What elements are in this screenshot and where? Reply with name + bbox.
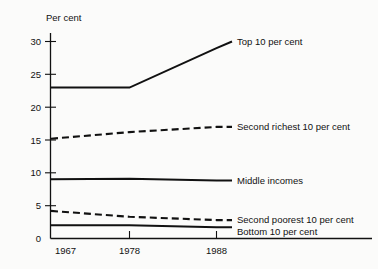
series-label-second-poorest-10-per-cent: Second poorest 10 per cent [237, 214, 354, 225]
y-tick-label-30: 30 [30, 36, 41, 47]
x-tick-label-1988: 1988 [206, 245, 227, 256]
y-tick-label-25: 25 [30, 69, 41, 80]
series-line-middle-incomes [51, 179, 232, 181]
y-tick-label-0: 0 [36, 233, 41, 244]
y-tick-label-15: 15 [30, 135, 41, 146]
y-tick-label-10: 10 [30, 167, 41, 178]
series-line-bottom-10-per-cent [51, 225, 232, 227]
series-line-second-poorest-10-per-cent [51, 211, 232, 220]
series-line-second-richest-10-per-cent [51, 127, 232, 139]
series-label-bottom-10-per-cent: Bottom 10 per cent [237, 226, 318, 237]
series-label-top-10-per-cent: Top 10 per cent [237, 36, 303, 47]
y-tick-label-20: 20 [30, 102, 41, 113]
income-distribution-line-chart: Per cent 30 25 20 15 10 5 0 1967 1978 19… [0, 0, 378, 269]
series-label-second-richest-10-per-cent: Second richest 10 per cent [237, 121, 350, 132]
x-tick-label-1967: 1967 [55, 245, 76, 256]
chart-page: Per cent 30 25 20 15 10 5 0 1967 1978 19… [0, 0, 378, 269]
y-axis-title: Per cent [46, 12, 82, 23]
series-line-top-10-per-cent [51, 42, 232, 88]
x-tick-label-1978: 1978 [119, 245, 140, 256]
series-label-middle-incomes: Middle incomes [237, 175, 303, 186]
y-tick-label-5: 5 [36, 200, 41, 211]
